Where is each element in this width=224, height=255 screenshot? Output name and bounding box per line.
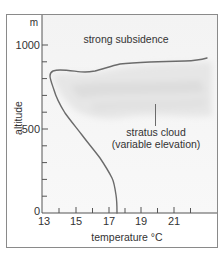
x-tick-label-13: 13 (38, 215, 50, 227)
chart-svg: m 1000 500 0 altitude 13 15 17 19 21 tem… (0, 0, 224, 255)
x-axis-title: temperature °C (91, 231, 163, 243)
x-tick-label-15: 15 (70, 215, 82, 227)
x-tick-label-19: 19 (135, 215, 147, 227)
x-tick-label-21: 21 (168, 215, 180, 227)
annotation-stratus-cloud: stratus cloud (126, 126, 186, 138)
y-unit-label: m (30, 17, 38, 28)
annotation-strong-subsidence: strong subsidence (83, 33, 168, 45)
x-tick-label-17: 17 (103, 215, 115, 227)
y-tick-label-1000: 1000 (16, 39, 40, 51)
y-tick-label-500: 500 (22, 123, 40, 135)
annotation-variable-elevation: (variable elevation) (112, 138, 201, 150)
chart-figure: m 1000 500 0 altitude 13 15 17 19 21 tem… (0, 0, 224, 255)
y-axis-title: altitude (12, 101, 24, 135)
